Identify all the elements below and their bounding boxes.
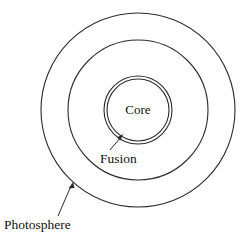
fusion-label: Fusion xyxy=(100,151,137,166)
core-label: Core xyxy=(125,102,151,117)
diagram-canvas: Core Fusion Photosphere xyxy=(0,0,247,236)
sun-structure-diagram: Core Fusion Photosphere xyxy=(0,0,247,236)
photosphere-label: Photosphere xyxy=(4,217,71,232)
photosphere-leader-line xyxy=(58,186,71,216)
